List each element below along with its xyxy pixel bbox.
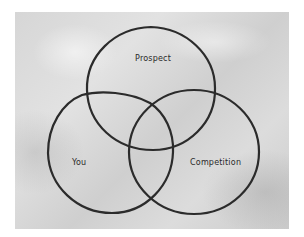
venn-diagram-canvas: Prospect You Competition (0, 0, 304, 237)
you-circle (48, 92, 173, 213)
competition-circle (129, 90, 259, 214)
venn-circles (0, 0, 304, 237)
prospect-label: Prospect (135, 54, 171, 63)
competition-label: Competition (190, 158, 241, 167)
you-label: You (72, 158, 86, 167)
prospect-circle (87, 27, 215, 150)
